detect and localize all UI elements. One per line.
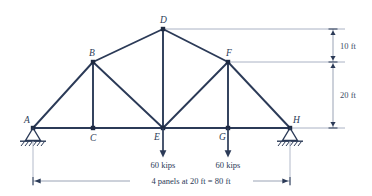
member-EF xyxy=(163,62,228,128)
truss-diagram: 10 ft 20 ft A xyxy=(0,0,372,196)
truss-members xyxy=(33,29,290,128)
joint-label-A: A xyxy=(23,115,30,125)
load-label-E: 60 kips xyxy=(151,160,176,170)
joint-node-F xyxy=(226,60,230,64)
member-FH xyxy=(228,62,290,128)
joint-node-D xyxy=(161,27,165,31)
joint-label-C: C xyxy=(90,133,97,143)
joint-label-F: F xyxy=(225,48,232,58)
member-AB xyxy=(33,62,93,128)
member-BE xyxy=(93,62,163,128)
joint-label-E: E xyxy=(153,132,160,142)
load-label-G: 60 kips xyxy=(216,160,241,170)
span-dimension-label: 4 panels at 20 ft = 80 ft xyxy=(151,176,231,186)
dimension-label-10ft: 10 ft xyxy=(340,41,356,51)
joint-label-B: B xyxy=(89,48,95,58)
joint-node-C xyxy=(91,126,95,130)
joint-labels: A B C D E F G H xyxy=(23,15,301,143)
joint-label-D: D xyxy=(159,15,167,25)
joint-label-H: H xyxy=(292,115,301,125)
joint-label-G: G xyxy=(219,132,226,142)
member-DF xyxy=(163,29,228,62)
member-BD xyxy=(93,29,163,62)
joint-node-B xyxy=(91,60,95,64)
vertical-dimension-10ft: 10 ft xyxy=(329,29,357,62)
joint-nodes xyxy=(31,27,292,130)
dimension-label-20ft: 20 ft xyxy=(340,90,356,100)
vertical-dimension-20ft: 20 ft xyxy=(329,62,357,128)
